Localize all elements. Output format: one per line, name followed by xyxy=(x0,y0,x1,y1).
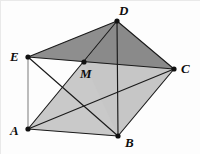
geometry-figure: A B C D E M xyxy=(0,0,200,154)
vertex-label-C: C xyxy=(181,62,190,75)
vertex-dot-C xyxy=(171,66,176,71)
vertex-label-B: B xyxy=(125,136,134,149)
vertex-label-A: A xyxy=(10,124,19,137)
vertex-label-M: M xyxy=(80,67,92,80)
vertex-label-D: D xyxy=(119,4,128,17)
vertex-label-E: E xyxy=(10,50,19,63)
vertex-dot-B xyxy=(115,133,120,138)
vertex-dot-M xyxy=(81,59,86,64)
figure-canvas xyxy=(0,0,200,154)
vertex-dot-D xyxy=(114,18,119,23)
vertex-dot-A xyxy=(25,126,30,131)
vertex-dot-E xyxy=(25,54,30,59)
